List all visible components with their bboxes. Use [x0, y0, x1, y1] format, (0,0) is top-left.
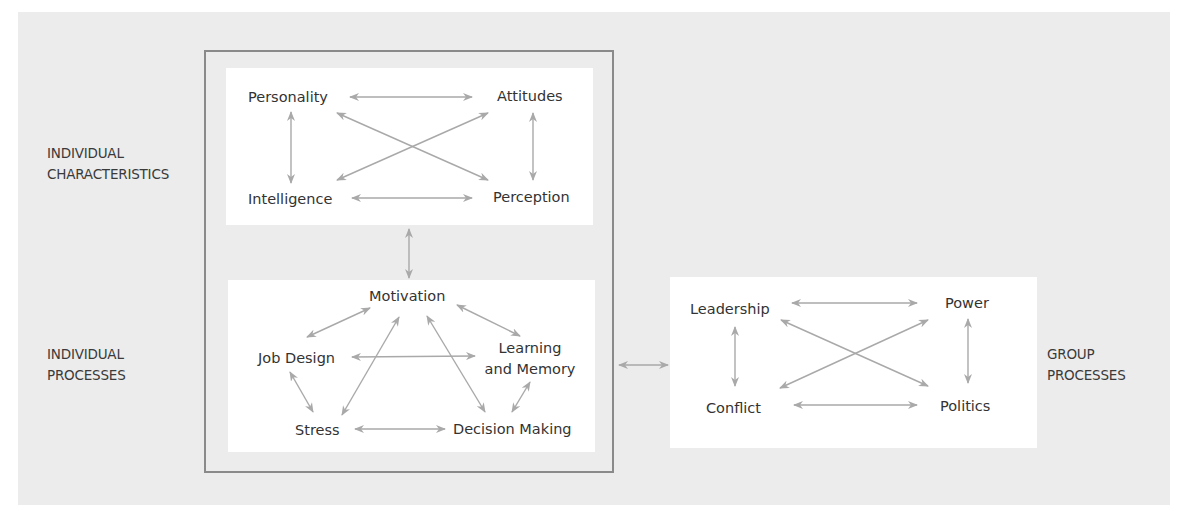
node-decision-making: Decision Making: [453, 420, 572, 438]
node-intelligence: Intelligence: [248, 190, 332, 208]
label-line: PROCESSES: [47, 365, 126, 386]
label-individual-processes: INDIVIDUAL PROCESSES: [47, 344, 126, 386]
node-perception: Perception: [493, 188, 570, 206]
node-attitudes: Attitudes: [497, 87, 563, 105]
node-line: and Memory: [478, 360, 582, 378]
label-group-processes: GROUP PROCESSES: [1047, 344, 1126, 386]
node-job-design: Job Design: [258, 349, 335, 367]
label-line: PROCESSES: [1047, 365, 1126, 386]
node-learning-memory: Learning and Memory: [478, 339, 582, 378]
label-line: INDIVIDUAL: [47, 344, 126, 365]
node-conflict: Conflict: [706, 399, 761, 417]
node-stress: Stress: [295, 421, 340, 439]
label-line: GROUP: [1047, 344, 1126, 365]
label-individual-characteristics: INDIVIDUAL CHARACTERISTICS: [47, 143, 169, 185]
node-power: Power: [945, 294, 989, 312]
label-line: INDIVIDUAL: [47, 143, 169, 164]
label-line: CHARACTERISTICS: [47, 164, 169, 185]
node-line: Learning: [478, 339, 582, 357]
node-personality: Personality: [248, 88, 328, 106]
node-motivation: Motivation: [369, 287, 445, 305]
node-politics: Politics: [940, 397, 990, 415]
node-leadership: Leadership: [690, 300, 770, 318]
